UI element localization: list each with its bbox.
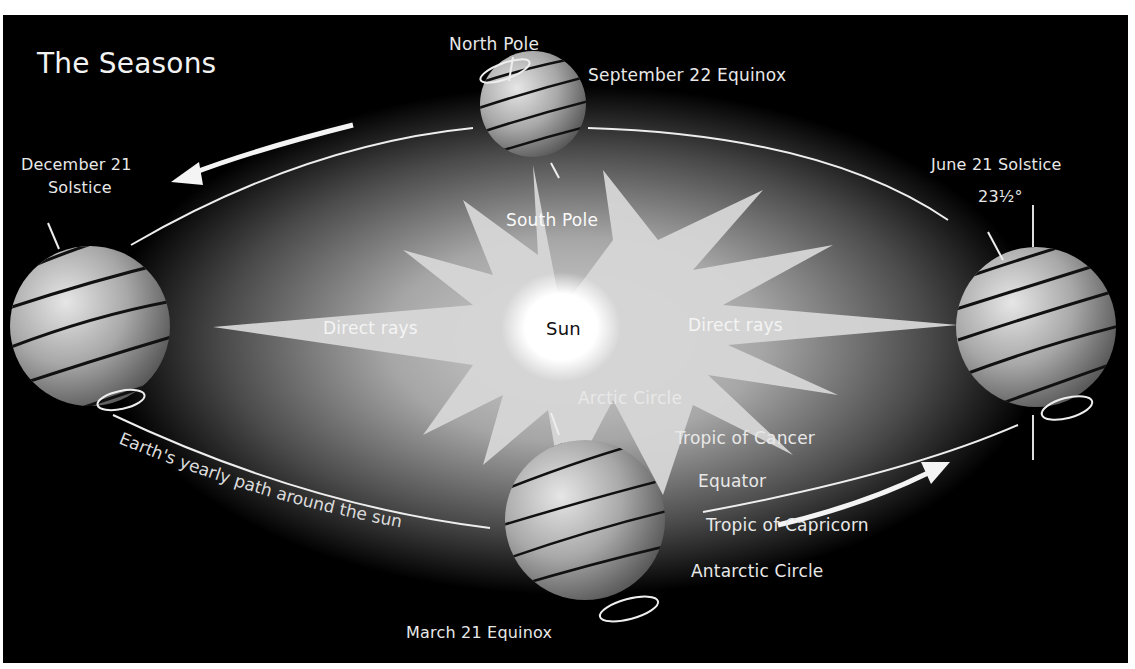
tropic-of-capricorn-label: Tropic of Capricorn	[706, 515, 869, 535]
tropic-of-cancer-label: Tropic of Cancer	[675, 428, 815, 448]
diagram-artwork: Earth's yearly path around the sun	[3, 15, 1128, 663]
antarctic-circle-label: Antarctic Circle	[691, 561, 824, 581]
north-pole-label: North Pole	[449, 34, 539, 54]
arctic-circle-label: Arctic Circle	[578, 388, 682, 408]
south-pole-label: South Pole	[506, 210, 598, 230]
september-equinox-label: September 22 Equinox	[588, 65, 786, 85]
axial-tilt-label: 23½°	[978, 187, 1023, 206]
equator-label: Equator	[698, 471, 766, 491]
december-solstice-label-line2: Solstice	[48, 178, 112, 197]
march-equinox-label: March 21 Equinox	[406, 623, 552, 642]
seasons-diagram: Earth's yearly path around the sun The S…	[3, 15, 1128, 663]
diagram-title: The Seasons	[37, 47, 216, 80]
direct-rays-label-left: Direct rays	[323, 318, 418, 338]
direct-rays-label-right: Direct rays	[688, 315, 783, 335]
sun-label: Sun	[546, 318, 581, 339]
december-solstice-label-line1: December 21	[21, 155, 132, 174]
june-solstice-label: June 21 Solstice	[931, 155, 1062, 174]
